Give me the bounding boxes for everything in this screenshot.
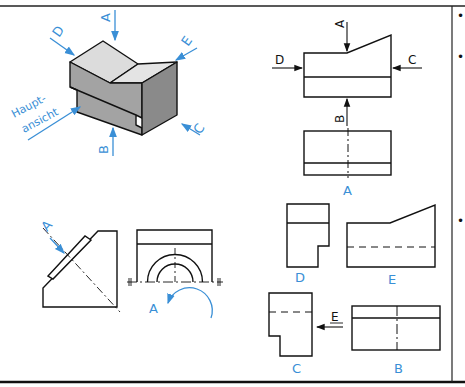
front-label-b: B <box>333 115 347 123</box>
view-e-label: E <box>388 272 396 287</box>
view-a <box>304 128 391 178</box>
iso-label-c: C <box>190 121 207 137</box>
oblique-arrow-a <box>50 238 64 253</box>
sidebar-bullets: • • • <box>457 9 464 228</box>
view-c-label: C <box>292 361 301 376</box>
view-e <box>347 205 435 267</box>
side-arrow-label-e: E <box>331 310 339 324</box>
isometric-block <box>70 41 177 135</box>
front-label-a: A <box>333 19 347 28</box>
iso-label-d: D <box>49 23 67 40</box>
iso-label-a: A <box>98 13 113 22</box>
oblique-label-a: A <box>38 217 55 234</box>
arrow-d-iso <box>50 38 74 55</box>
oblique-view <box>43 228 120 312</box>
view-d-label: D <box>295 270 305 285</box>
technical-drawing-canvas: • • • A D E B C Haupt- ansicht <box>0 0 465 387</box>
front-label-d: D <box>275 53 284 67</box>
iso-label-b: B <box>96 145 111 154</box>
rotated-view <box>127 230 223 286</box>
view-c <box>269 293 312 356</box>
arrow-e-iso <box>176 48 197 60</box>
bullet-3: • <box>457 214 464 228</box>
rotated-view-label-a: A <box>149 301 158 316</box>
view-a-label: A <box>343 183 352 198</box>
bullet-1: • <box>457 9 464 23</box>
view-b <box>352 306 440 350</box>
view-d <box>287 204 329 267</box>
iso-label-e: E <box>178 33 195 48</box>
front-view-arrows <box>272 22 422 126</box>
bullet-2: • <box>457 50 464 64</box>
rotation-arrow <box>168 288 212 318</box>
view-b-label: B <box>394 361 403 376</box>
front-label-c: C <box>408 53 416 67</box>
